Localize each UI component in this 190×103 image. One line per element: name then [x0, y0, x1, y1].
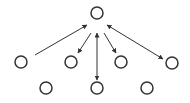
node-l3: [115, 56, 127, 68]
node-l4: [166, 57, 178, 69]
edge-root-l4: [107, 25, 163, 59]
node-b1: [40, 82, 52, 94]
tree-diagram: [0, 0, 190, 103]
node-root: [91, 7, 103, 19]
node-b3: [141, 82, 153, 94]
edges-group: [35, 25, 163, 80]
node-b2: [91, 82, 103, 94]
edge-root-l2: [78, 33, 91, 53]
node-l1: [15, 56, 27, 68]
edge-root-l3: [104, 33, 116, 53]
node-l2: [65, 56, 77, 68]
